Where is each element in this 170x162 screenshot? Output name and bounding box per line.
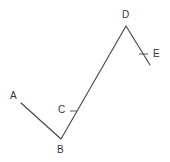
diagram-canvas: A B C D E [0,0,170,162]
label-d: D [122,9,129,20]
label-c: C [58,104,65,115]
label-b: B [57,144,64,155]
label-e: E [153,48,160,59]
path-a-b-d-e [21,26,150,139]
label-a: A [10,90,17,101]
